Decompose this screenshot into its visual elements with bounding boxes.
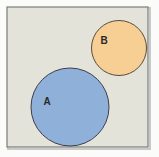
set-b: B: [92, 21, 147, 76]
set-b-circle: [92, 21, 147, 76]
venn-diagram: A B: [0, 0, 159, 157]
set-b-label: B: [101, 35, 108, 46]
set-a: A: [31, 68, 109, 146]
set-a-circle: [31, 68, 109, 146]
set-a-label: A: [44, 96, 51, 107]
